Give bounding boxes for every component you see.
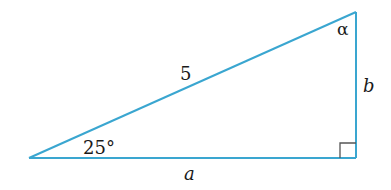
- right-triangle-diagram: 5 25° α a b: [0, 0, 391, 190]
- angle-alpha-label: α: [337, 19, 349, 39]
- side-b-label: b: [363, 75, 375, 96]
- hypotenuse-label: 5: [180, 63, 191, 84]
- right-angle-mark: [340, 143, 356, 158]
- side-a-label: a: [184, 163, 195, 184]
- angle-left-label: 25°: [83, 137, 115, 158]
- hypotenuse-edge: [29, 12, 356, 158]
